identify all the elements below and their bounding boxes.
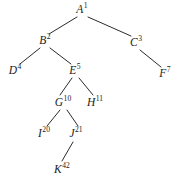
tree-node-index: 3	[138, 34, 142, 43]
tree-edge-b-d	[20, 48, 40, 64]
tree-node-j: J21	[69, 128, 82, 140]
tree-node-letter: G	[55, 96, 63, 108]
tree-node-d: D4	[9, 65, 22, 77]
tree-node-e: E5	[69, 65, 80, 77]
tree-node-letter: E	[69, 64, 76, 76]
tree-node-index: 4	[18, 62, 22, 71]
tree-node-letter: C	[130, 36, 138, 48]
tree-node-h: H11	[87, 97, 103, 109]
tree-node-index: 20	[42, 125, 50, 134]
tree-node-index: 11	[96, 94, 103, 103]
tree-edge-a-c	[88, 17, 131, 36]
tree-node-f: F7	[159, 68, 170, 80]
tree-node-letter: J	[69, 127, 74, 139]
tree-node-index: 7	[167, 65, 171, 74]
tree-node-letter: H	[87, 96, 95, 108]
tree-node-letter: D	[9, 64, 17, 76]
tree-node-c: C3	[130, 37, 142, 49]
tree-node-index: 42	[62, 161, 70, 170]
tree-node-k: K42	[54, 164, 70, 176]
tree-edge-e-h	[79, 78, 93, 95]
tree-node-g: G10	[55, 97, 71, 109]
tree-edge-b-e	[50, 48, 71, 64]
tree-node-i: I20	[38, 128, 50, 140]
tree-node-letter: K	[54, 163, 62, 175]
tree-edge-g-i	[47, 110, 60, 126]
tree-edge-a-b	[49, 17, 77, 34]
tree-edge-j-k	[62, 142, 73, 161]
tree-node-b: B2	[39, 35, 50, 47]
tree-node-index: 5	[77, 62, 81, 71]
tree-edge-c-f	[140, 50, 161, 67]
tree-node-index: 10	[64, 94, 72, 103]
tree-node-index: 1	[84, 1, 88, 10]
tree-edge-layer	[0, 0, 183, 186]
tree-node-a: A1	[76, 4, 87, 16]
tree-node-letter: A	[76, 3, 83, 15]
tree-diagram: A1B2C3D4E5F7G10H11I20J21K42	[0, 0, 183, 186]
tree-node-letter: B	[39, 34, 46, 46]
tree-node-letter: F	[159, 67, 166, 79]
tree-node-index: 2	[47, 32, 51, 41]
tree-node-index: 21	[75, 125, 83, 134]
tree-edge-g-j	[67, 110, 78, 126]
tree-edge-e-g	[60, 78, 72, 95]
